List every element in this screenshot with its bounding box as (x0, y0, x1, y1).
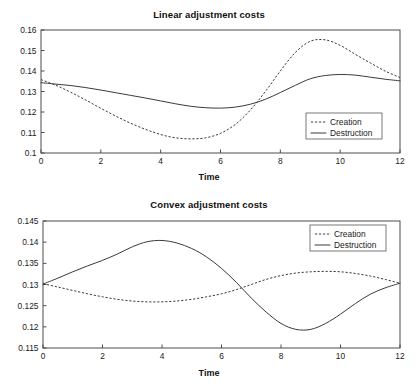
plot-area-linear: 0.10.110.120.130.140.150.16024681012Crea… (0, 0, 418, 190)
y-tick-label: 0.15 (20, 46, 37, 56)
x-tick-label: 4 (158, 156, 163, 166)
plot-area-convex: 0.1150.120.1250.130.1350.140.14502468101… (0, 190, 418, 387)
y-tick-label: 0.115 (18, 343, 39, 353)
y-tick-label: 0.11 (21, 128, 37, 138)
x-tick-label: 2 (98, 156, 103, 166)
figure-container: Linear adjustment costs Time 0.10.110.12… (0, 0, 418, 387)
legend: CreationDestruction (310, 225, 386, 251)
y-tick-label: 0.14 (22, 237, 39, 247)
legend: CreationDestruction (306, 113, 382, 139)
x-tick-label: 6 (218, 156, 223, 166)
y-tick-label: 0.12 (22, 322, 39, 332)
legend-label-destruction: Destruction (334, 240, 377, 250)
x-tick-label: 12 (395, 351, 405, 361)
y-tick-label: 0.13 (22, 280, 39, 290)
legend-label-destruction: Destruction (330, 128, 373, 138)
y-tick-label: 0.145 (18, 216, 39, 226)
x-tick-label: 12 (395, 156, 405, 166)
series-creation (43, 271, 400, 302)
y-tick-label: 0.13 (20, 87, 37, 97)
series-destruction (43, 240, 400, 330)
y-tick-label: 0.135 (18, 258, 39, 268)
y-tick-label: 0.14 (20, 66, 37, 76)
x-tick-label: 8 (279, 351, 284, 361)
chart-panel-linear: Linear adjustment costs Time 0.10.110.12… (0, 0, 418, 190)
legend-label-creation: Creation (334, 229, 366, 239)
y-tick-label: 0.125 (18, 301, 39, 311)
x-tick-label: 8 (278, 156, 283, 166)
x-tick-label: 10 (336, 156, 346, 166)
x-tick-label: 6 (219, 351, 224, 361)
y-tick-label: 0.16 (20, 25, 37, 35)
y-tick-label: 0.12 (20, 107, 37, 117)
chart-panel-convex: Convex adjustment costs Time 0.1150.120.… (0, 190, 418, 387)
x-tick-label: 10 (336, 351, 346, 361)
x-tick-label: 2 (100, 351, 105, 361)
x-tick-label: 0 (39, 156, 44, 166)
series-destruction (41, 74, 400, 108)
legend-label-creation: Creation (330, 117, 362, 127)
x-tick-label: 4 (160, 351, 165, 361)
y-tick-label: 0.1 (25, 148, 37, 158)
x-tick-label: 0 (41, 351, 46, 361)
